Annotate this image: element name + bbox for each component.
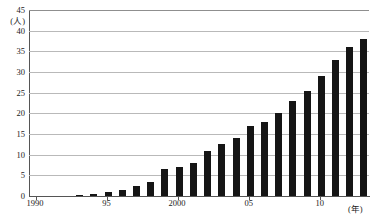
bar-1994 [90,194,97,196]
x-tick-label-1990: 1990 [27,199,44,208]
y-tick-label-45: 45 [0,6,25,15]
bar-1998 [147,182,154,196]
bar-1993 [76,195,83,196]
bar-2013 [360,39,367,196]
bar-2010 [318,76,325,196]
y-tick-label-5: 5 [0,171,25,180]
x-tick-label-2005: 05 [244,199,253,208]
bar-1999 [161,169,168,196]
bar-2005 [247,126,254,196]
y-tick-label-20: 20 [0,109,25,118]
x-tick-label-1995: 95 [102,199,111,208]
y-tick-label-35: 35 [0,47,25,56]
y-tick-label-25: 25 [0,89,25,98]
bar-2009 [304,91,311,196]
bar-1996 [119,190,126,196]
bar-series [29,10,370,196]
x-tick-label-2010: 10 [315,199,324,208]
bar-2006 [261,122,268,196]
bar-2011 [332,60,339,196]
bar-2001 [190,163,197,196]
y-tick-label-40: 40 [0,27,25,36]
bar-2012 [346,47,353,196]
y-axis-labels: (人) 051015202530354045 [0,0,26,222]
bar-2002 [204,151,211,196]
y-tick-label-30: 30 [0,68,25,77]
bar-1995 [105,192,112,196]
bar-2000 [176,167,183,196]
bar-1997 [133,186,140,196]
x-tick-label-2000: 2000 [169,199,186,208]
bar-2004 [233,138,240,196]
x-axis-labels: (年) 19909520000510 [0,197,373,222]
y-tick-label-10: 10 [0,151,25,160]
bar-chart: (人) 051015202530354045 (年) 1990952000051… [0,0,373,222]
bar-2008 [289,101,296,196]
bar-2007 [275,113,282,196]
x-axis-unit-label: (年) [348,205,363,214]
bar-2003 [218,144,225,196]
y-tick-label-15: 15 [0,130,25,139]
y-axis-unit-label: (人) [0,17,25,26]
